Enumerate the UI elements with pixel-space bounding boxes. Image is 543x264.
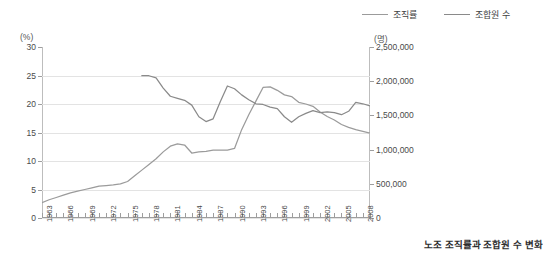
line-series-rate	[42, 87, 370, 203]
x-tick-label: 2002	[323, 205, 332, 222]
x-tick-label: 1993	[259, 205, 268, 222]
y-tick-label-left: 10	[10, 156, 36, 166]
left-axis-unit: (%)	[20, 32, 33, 42]
legend-item-rate[interactable]: 조직률	[362, 8, 418, 21]
x-tick-label: 2005	[344, 205, 353, 222]
x-tick-label: 1978	[152, 205, 161, 222]
y-tick-label-right: 0	[376, 213, 381, 223]
legend-label-members: 조합원 수	[475, 8, 511, 21]
y-tick-label-right: 2,000,000	[376, 76, 414, 86]
chart-legend: 조직률 조합원 수	[362, 8, 510, 21]
y-tick-mark-right	[370, 184, 374, 185]
x-tick-label: 1999	[302, 205, 311, 222]
y-tick-label-right: 1,500,000	[376, 110, 414, 120]
x-tick-label: 1996	[280, 205, 289, 222]
series-layer	[42, 47, 370, 218]
y-tick-mark-right	[370, 150, 374, 151]
y-tick-label-left: 20	[10, 99, 36, 109]
x-tick-label: 1972	[109, 205, 118, 222]
legend-line-swatch-members	[444, 14, 470, 15]
y-tick-label-right: 1,000,000	[376, 145, 414, 155]
legend-label-rate: 조직률	[393, 8, 418, 21]
x-tick-label: 1966	[66, 205, 75, 222]
y-tick-label-left: 25	[10, 71, 36, 81]
y-tick-label-left: 5	[10, 185, 36, 195]
x-tick-label: 1990	[238, 205, 247, 222]
y-tick-mark-right	[370, 81, 374, 82]
chart-figure: 조직률 조합원 수 (%) (명) 노조 조직률과 조합원 수 변화 30252…	[0, 0, 543, 264]
x-tick-label: 1984	[195, 205, 204, 222]
y-tick-label-left: 15	[10, 128, 36, 138]
line-series-members	[142, 76, 370, 123]
y-tick-mark-right	[370, 115, 374, 116]
y-tick-mark-right	[370, 47, 374, 48]
y-tick-mark-left	[38, 218, 42, 219]
figure-caption: 노조 조직률과 조합원 수 변화	[424, 237, 543, 251]
x-tick-label: 1975	[131, 205, 140, 222]
x-tick-label: 2008	[366, 205, 375, 222]
y-tick-label-left: 30	[10, 42, 36, 52]
legend-item-members[interactable]: 조합원 수	[444, 8, 511, 21]
y-tick-label-left: 0	[10, 213, 36, 223]
y-tick-label-right: 2,500,000	[376, 42, 414, 52]
legend-line-swatch-rate	[362, 14, 388, 15]
x-tick-label: 1987	[216, 205, 225, 222]
x-tick-label: 1981	[173, 205, 182, 222]
x-tick-label: 1969	[88, 205, 97, 222]
x-tick-label: 1963	[45, 205, 54, 222]
y-tick-label-right: 500,000	[376, 179, 407, 189]
